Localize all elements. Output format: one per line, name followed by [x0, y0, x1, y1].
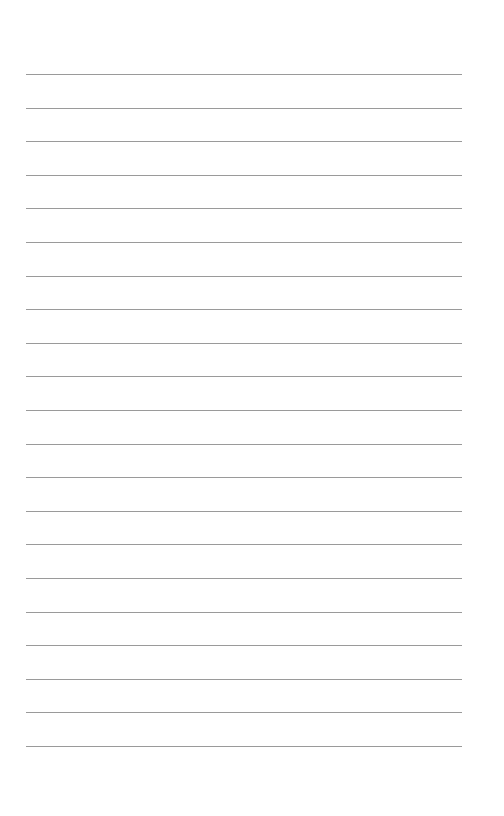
ruled-line	[26, 276, 462, 277]
ruled-line	[26, 645, 462, 646]
ruled-line	[26, 175, 462, 176]
ruled-line	[26, 712, 462, 713]
ruled-line	[26, 376, 462, 377]
ruled-line	[26, 410, 462, 411]
ruled-line	[26, 108, 462, 109]
ruled-line	[26, 242, 462, 243]
ruled-line	[26, 578, 462, 579]
ruled-line	[26, 141, 462, 142]
ruled-line	[26, 746, 462, 747]
ruled-line	[26, 511, 462, 512]
ruled-line	[26, 444, 462, 445]
ruled-line	[26, 309, 462, 310]
ruled-line	[26, 74, 462, 75]
ruled-line	[26, 612, 462, 613]
ruled-line	[26, 477, 462, 478]
ruled-line	[26, 343, 462, 344]
ruled-line	[26, 208, 462, 209]
lined-page	[0, 0, 504, 816]
ruled-line	[26, 544, 462, 545]
ruled-line	[26, 679, 462, 680]
